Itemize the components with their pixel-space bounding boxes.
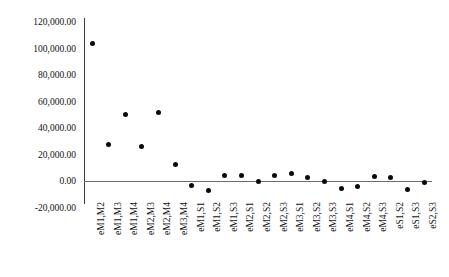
data-point (289, 171, 294, 176)
data-point-layer (0, 0, 449, 277)
data-point (388, 175, 393, 180)
data-point (189, 183, 194, 188)
data-point (422, 180, 427, 185)
data-point (139, 144, 144, 149)
data-point (372, 174, 377, 179)
data-point (173, 162, 178, 167)
data-point (272, 173, 277, 178)
data-point (305, 175, 310, 180)
data-point (106, 142, 111, 147)
scatter-chart: 120,000.00100,000.0080,000.0060,000.0040… (0, 0, 449, 277)
data-point (239, 173, 244, 178)
data-point (90, 41, 95, 46)
data-point (156, 110, 161, 115)
data-point (206, 188, 211, 193)
data-point (123, 112, 128, 117)
data-point (355, 184, 360, 189)
data-point (222, 173, 227, 178)
data-point (322, 179, 327, 184)
data-point (339, 186, 344, 191)
data-point (256, 179, 261, 184)
data-point (405, 187, 410, 192)
